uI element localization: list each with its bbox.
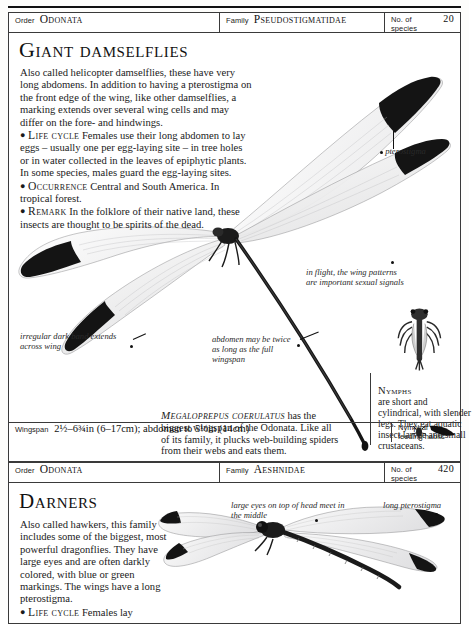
family-label: Family — [226, 16, 249, 25]
occurrence-paragraph: ● Occurrence Central and South America. … — [20, 180, 252, 206]
entry-prose-darners: Also called hawkers, this family include… — [20, 519, 172, 619]
order-label: Order — [15, 16, 35, 25]
bullet-glyph: ● — [20, 130, 25, 140]
life-cycle-paragraph: ● Life cycle Females lay — [20, 606, 172, 619]
entry-header-row: Order Odonata Family Aeshnidae No. of sp… — [9, 463, 460, 483]
family-value: Pseudostigmatidae — [254, 13, 347, 25]
annotation-text: in flight, the wing patterns are importa… — [306, 267, 404, 287]
occurrence-heading: Occurrence — [28, 180, 87, 193]
annotation-abdomen-length: abdomen may be twice as long as the full… — [212, 335, 296, 364]
annotation-text: abdomen may be twice as long as the full… — [212, 334, 291, 364]
order-label: Order — [15, 466, 35, 475]
header-cell-order: Order Odonata — [9, 463, 220, 482]
life-cycle-heading: Life cycle — [28, 606, 79, 619]
entry-prose-giant-damselflies: Also called helicopter damselflies, thes… — [20, 67, 252, 231]
species-count-label: No. of species — [391, 15, 438, 32]
annotation-long-pterostigma: long pterostigma — [383, 501, 445, 511]
leader-line-dark-band — [133, 333, 146, 340]
family-value: Aeshnidae — [254, 463, 305, 475]
leader-dot-long-pterostigma — [435, 513, 438, 516]
annotation-text: pterostigma — [385, 146, 426, 156]
thorax-and-head — [209, 228, 239, 268]
header-cell-family: Family Aeshnidae — [220, 463, 385, 482]
darner-body — [255, 521, 399, 587]
entry-body-darners: Darners Also called hawkers, this family… — [9, 483, 460, 624]
wingspan-value: 2½–6¾in (6–17cm); abdomen to 5½in (14cm) — [54, 423, 249, 434]
entry-title-darners: Darners — [19, 491, 98, 512]
entry-footer-row: Wingspan 2½–6¾in (6–17cm); abdomen to 5½… — [9, 422, 460, 442]
intro-paragraph: Also called hawkers, this family include… — [20, 519, 172, 606]
entry-body-giant-damselflies: Giant damselflies Also called helicopter… — [9, 33, 460, 442]
annotation-large-eyes: large eyes on top of head meet in the mi… — [231, 501, 351, 521]
leader-dot-large-eyes — [315, 519, 318, 522]
family-label: Family — [226, 466, 249, 475]
header-cell-family: Family Pseudostigmatidae — [220, 13, 385, 32]
species-count-label: No. of species — [391, 465, 433, 482]
leader-dot — [380, 151, 383, 154]
annotation-in-flight: in flight, the wing patterns are importa… — [306, 268, 406, 288]
entry-header-row: Order Odonata Family Pseudostigmatidae N… — [9, 13, 460, 33]
bullet-glyph: ● — [20, 607, 25, 617]
life-cycle-heading: Life cycle — [28, 129, 79, 142]
species-count-value: 20 — [443, 13, 454, 24]
species-scientific-name: Megaloprepus coerulatus — [161, 409, 285, 421]
bullet-glyph: ● — [20, 206, 25, 216]
page-top-rule — [8, 6, 461, 8]
annotation-text: irregular dark band extends across wing — [20, 331, 116, 351]
entry-panel-darners: Order Odonata Family Aeshnidae No. of sp… — [8, 462, 461, 624]
order-value: Odonata — [40, 13, 83, 25]
wingspan-label: Wingspan — [15, 425, 48, 434]
nymph-illustration — [398, 308, 440, 370]
remark-heading: Remark — [28, 205, 66, 218]
bullet-glyph: ● — [20, 181, 25, 191]
nymphal-habits-icon — [410, 424, 456, 441]
footer-cell-wingspan: Wingspan 2½–6¾in (6–17cm); abdomen to 5½… — [9, 423, 392, 442]
footer-cell-nymphal-habits: Nymphal feeding habits — [392, 423, 460, 442]
header-cell-species-count: No. of species 420 — [385, 463, 460, 482]
annotation-text: large eyes on top of head meet in the mi… — [231, 500, 345, 520]
header-cell-order: Order Odonata — [9, 13, 220, 32]
annotation-text: long pterostigma — [383, 500, 441, 510]
life-cycle-text: Females lay — [82, 607, 133, 618]
wing-upper-left — [19, 227, 225, 278]
annotation-dark-band: irregular dark band extends across wing — [20, 332, 128, 352]
annotation-pterostigma: pterostigma — [380, 147, 426, 157]
wing-upper-right — [231, 77, 443, 238]
nymph-heading: Nymphs — [378, 385, 473, 396]
header-cell-species-count: No. of species 20 — [385, 13, 460, 32]
species-count-value: 420 — [438, 463, 454, 474]
order-value: Odonata — [40, 463, 83, 475]
intro-paragraph: Also called helicopter damselflies, thes… — [20, 67, 252, 129]
leader-line-abdomen — [300, 332, 319, 340]
nymph-feeding-glyph — [412, 426, 455, 440]
entry-panel-giant-damselflies: Order Odonata Family Pseudostigmatidae N… — [8, 12, 461, 462]
leader-line-pterostigma — [393, 131, 394, 149]
leader-dot-abdomen — [297, 344, 300, 347]
remark-paragraph: ● Remark In the folklore of their native… — [20, 205, 252, 231]
life-cycle-paragraph: ● Life cycle Females use their long abdo… — [20, 129, 252, 180]
leader-dot-dark-band — [130, 345, 133, 348]
leader-dot-in-flight — [391, 261, 394, 264]
entry-title-giant-damselflies: Giant damselflies — [19, 39, 188, 61]
